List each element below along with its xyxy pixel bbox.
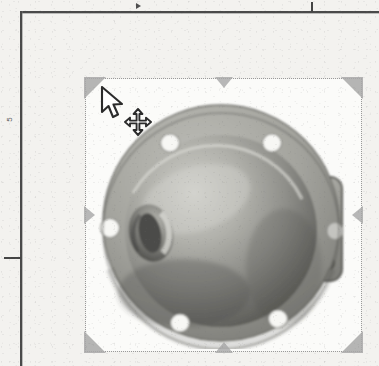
- resize-handle-bottom-right[interactable]: [341, 331, 363, 353]
- resize-handle-left-center[interactable]: [84, 206, 95, 224]
- resize-handle-right-center[interactable]: [352, 206, 363, 224]
- mechanical-part-photograph[interactable]: [88, 81, 359, 349]
- resize-handle-top-right[interactable]: [341, 77, 363, 99]
- image-selection-frame[interactable]: [85, 78, 362, 352]
- resize-handle-bottom-center[interactable]: [215, 342, 233, 353]
- resize-handle-top-left[interactable]: [84, 77, 106, 99]
- left-margin-tick-icon[interactable]: [4, 257, 21, 259]
- left-ruler-label: 5: [5, 117, 14, 121]
- resize-handle-bottom-left[interactable]: [84, 331, 106, 353]
- top-tab-stop-marker-icon[interactable]: [311, 2, 313, 12]
- resize-handle-top-center[interactable]: [215, 77, 233, 88]
- page-top-margin-rule: [20, 11, 379, 13]
- top-indent-arrow-marker-icon[interactable]: [136, 3, 141, 9]
- scanned-page-canvas: 5: [0, 0, 379, 366]
- page-left-margin-rule: [20, 11, 22, 366]
